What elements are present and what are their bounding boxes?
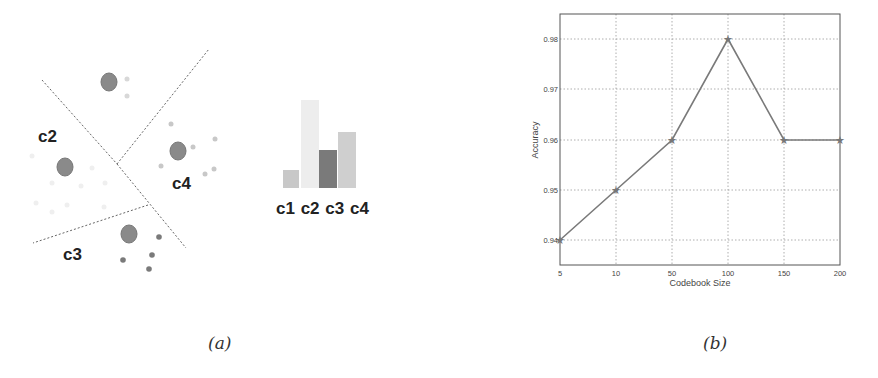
- histogram-bar-c4: [338, 132, 356, 188]
- svg-text:200: 200: [834, 269, 847, 278]
- svg-text:50: 50: [668, 269, 676, 278]
- svg-text:★: ★: [667, 134, 677, 146]
- accuracy-line: [560, 39, 840, 240]
- histogram-label-c3: c3: [325, 199, 344, 218]
- points-c1: [125, 77, 130, 99]
- histogram-bar-c3: [319, 150, 337, 188]
- x-tick-labels: 51050 100150200: [558, 269, 846, 278]
- svg-text:0.98: 0.98: [543, 35, 558, 44]
- y-tick-labels: 0.980.970.96 0.950.94: [543, 35, 558, 245]
- centroids: [57, 73, 186, 243]
- svg-text:0.97: 0.97: [543, 85, 558, 94]
- region-label-c4: c4: [172, 174, 191, 194]
- histogram-bar-c1: [283, 170, 299, 188]
- svg-text:★: ★: [611, 184, 621, 196]
- histogram-label-c4: c4: [350, 199, 369, 218]
- caption-a: (a): [208, 333, 231, 353]
- svg-text:0.96: 0.96: [543, 136, 558, 145]
- svg-text:150: 150: [778, 269, 791, 278]
- cluster-diagram: [0, 30, 240, 290]
- histogram-labels: c1 c2 c3 c4: [276, 199, 369, 219]
- svg-text:0.94: 0.94: [543, 236, 558, 245]
- histogram-bar-c2: [301, 100, 319, 188]
- svg-text:10: 10: [612, 269, 620, 278]
- caption-b: (b): [703, 333, 727, 353]
- region-label-c3: c3: [63, 245, 82, 265]
- points-c4: [159, 122, 218, 177]
- y-axis-label: Accuracy: [530, 121, 540, 159]
- svg-text:5: 5: [558, 269, 562, 278]
- svg-text:★: ★: [723, 33, 733, 45]
- svg-text:100: 100: [722, 269, 735, 278]
- accuracy-chart: ★★★ ★★★ 0.980.970.96 0.950.94 51050 1001…: [520, 0, 878, 300]
- svg-text:★: ★: [779, 134, 789, 146]
- histogram: [283, 98, 373, 188]
- svg-text:★: ★: [835, 134, 845, 146]
- histogram-label-c1: c1: [276, 199, 295, 218]
- x-axis-label: Codebook Size: [669, 278, 730, 288]
- region-label-c2: c2: [38, 127, 57, 147]
- svg-text:0.95: 0.95: [543, 186, 558, 195]
- histogram-label-c2: c2: [301, 199, 320, 218]
